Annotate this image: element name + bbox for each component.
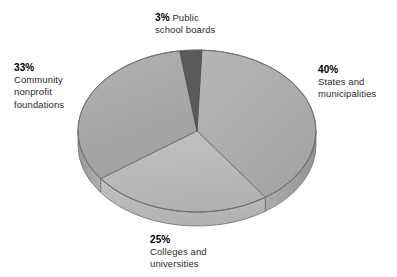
pie-label-colleges-universities: 25% Colleges and universities [150, 234, 207, 271]
pie-label-text-line2: municipalities [318, 88, 376, 100]
pie-chart: 3% Public school boards 40% States and m… [0, 0, 397, 277]
pie-label-states-municipalities: 40% States and municipalities [318, 64, 376, 101]
pie-top-face [78, 50, 316, 212]
pie-label-text: Community [14, 74, 64, 86]
pie-label-text: Public [172, 12, 198, 23]
pie-label-percent: 25% [150, 234, 207, 246]
pie-label-percent: 33% [14, 62, 64, 74]
pie-label-percent: 3% [155, 12, 170, 23]
pie-label-text-line3: foundations [14, 99, 64, 111]
pie-label-public-school-boards: 3% Public school boards [155, 12, 215, 36]
pie-label-percent: 40% [318, 64, 376, 76]
pie-label-text-line2: nonprofit [14, 86, 64, 98]
pie-label-text: States and [318, 76, 376, 88]
pie-label-text: Colleges and [150, 246, 207, 258]
pie-label-community-foundations: 33% Community nonprofit foundations [14, 62, 64, 111]
pie-label-text-line2: school boards [155, 24, 215, 36]
pie-label-text-line2: universities [150, 258, 207, 270]
